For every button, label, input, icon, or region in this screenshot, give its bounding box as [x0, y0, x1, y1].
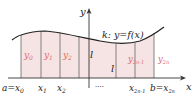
- tick-x2n-1: x2n-1: [129, 83, 145, 94]
- tick-x2: x2: [57, 83, 66, 94]
- tick-a-x0: a=x0: [2, 83, 24, 94]
- tick-ellipsis: ····: [95, 83, 104, 91]
- strip-width-label-2: l: [111, 63, 114, 74]
- tick-x1: x1: [38, 83, 47, 94]
- tick-b-x2n: b=x2n: [150, 83, 175, 94]
- simpson-diagram: y x k: y=f(x) l l y0 y1 y2 y2n-1 y2n a=x…: [0, 0, 193, 95]
- y-axis-label: y: [79, 6, 86, 17]
- ordinate-y2n: y2n: [157, 54, 169, 65]
- curve-label: k: y=f(x): [102, 29, 144, 40]
- x-tick-labels: a=x0 x1 x2 ···· x2n-1 b=x2n: [2, 83, 175, 94]
- x-axis-label: x: [186, 81, 192, 92]
- strip-width-label-1: l: [90, 49, 93, 60]
